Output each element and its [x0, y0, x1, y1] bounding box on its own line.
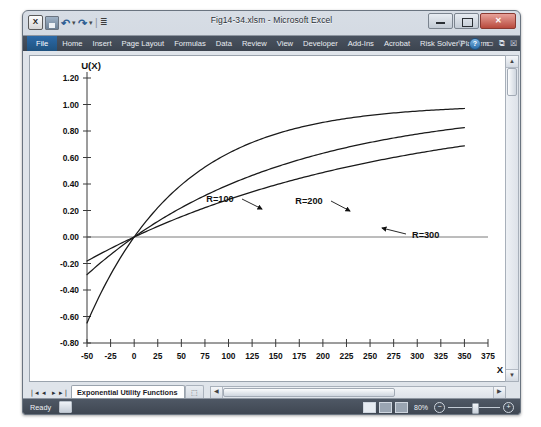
x-axis-tick-label: 325	[434, 351, 448, 361]
status-text: Ready	[23, 403, 51, 412]
x-axis-tick-label: 300	[410, 351, 424, 361]
y-axis-tick-label: 0.40	[63, 179, 80, 189]
x-axis-tick-label: 25	[153, 351, 163, 361]
minimize-ribbon-icon[interactable]: ▭	[486, 36, 494, 51]
y-axis-tick-label: 1.20	[63, 73, 80, 83]
x-axis-tick-label: 75	[200, 351, 210, 361]
zoom-slider-thumb[interactable]	[472, 403, 479, 414]
y-axis-tick-label: 1.00	[63, 100, 80, 110]
y-axis-tick-label: 0.80	[63, 126, 80, 136]
tab-file[interactable]: File	[27, 36, 57, 51]
annotation-label: R=300	[412, 230, 439, 240]
annotation-leader	[331, 201, 350, 211]
annotation-r-100: R=100	[206, 194, 262, 209]
restore-button[interactable]	[454, 13, 479, 29]
x-axis-title: X	[497, 364, 504, 375]
tab-formulas[interactable]: Formulas	[169, 36, 211, 51]
close-window-icon[interactable]: ☒	[510, 36, 517, 51]
ribbon-right-icons: ▽ ? ▭ ⧉ ☒	[458, 36, 517, 51]
annotation-leader	[382, 228, 406, 234]
tab-home[interactable]: Home	[57, 36, 87, 51]
ribbon-tabs: File Home Insert Page Layout Formulas Da…	[23, 36, 520, 51]
scroll-left-icon[interactable]: ◀	[211, 387, 223, 398]
x-axis-tick-label: 275	[387, 351, 401, 361]
close-button[interactable]: ✕	[480, 13, 516, 29]
page-break-view-button[interactable]	[395, 402, 408, 413]
x-axis-tick-label: 150	[269, 351, 283, 361]
series-line-r-200	[87, 128, 464, 275]
annotation-label: R=200	[295, 196, 322, 206]
y-axis-tick-label: 0.60	[63, 153, 80, 163]
x-axis-tick-label: 50	[177, 351, 187, 361]
x-axis-tick-label: 200	[316, 351, 330, 361]
normal-view-button[interactable]	[363, 402, 376, 413]
sheet-tab-exponential-utility-functions[interactable]: Exponential Utility Functions	[71, 385, 185, 399]
insert-worksheet-icon[interactable]: ⬚	[185, 385, 204, 399]
tab-data[interactable]: Data	[211, 36, 237, 51]
y-axis-tick-label: -0.20	[60, 259, 79, 269]
chart-svg: -0.80-0.60-0.40-0.200.000.200.400.600.80…	[30, 56, 507, 387]
x-axis-tick-label: 250	[363, 351, 377, 361]
tab-page-layout[interactable]: Page Layout	[117, 36, 170, 51]
first-sheet-icon[interactable]: ❘◂	[29, 389, 38, 397]
annotation-r-300: R=300	[382, 228, 439, 240]
y-axis-title: U(X)	[81, 60, 101, 71]
series-line-r-300	[87, 146, 464, 261]
screenshot-root: X ↶ ▾ ↷ ▾ | ≣ Fig14-34.xlsm - Microsoft …	[0, 0, 541, 427]
horizontal-scroll-thumb[interactable]	[223, 388, 396, 397]
y-axis-tick-label: 0.00	[63, 232, 80, 242]
x-axis-tick-label: 175	[292, 351, 306, 361]
window-controls: ✕	[428, 13, 516, 29]
vertical-scrollbar[interactable]: ▲ ▼	[505, 55, 519, 382]
ribbon-options-icon[interactable]: ▽	[458, 36, 464, 51]
scroll-down-icon[interactable]: ▼	[506, 369, 518, 381]
y-axis-tick-label: -0.60	[60, 312, 79, 322]
last-sheet-icon[interactable]: ▸❘	[59, 389, 68, 397]
scroll-up-icon[interactable]: ▲	[506, 56, 518, 68]
zoom-in-button[interactable]: +	[503, 402, 514, 413]
annotation-label: R=100	[206, 194, 233, 204]
excel-window: X ↶ ▾ ↷ ▾ | ≣ Fig14-34.xlsm - Microsoft …	[22, 10, 521, 415]
title-bar: X ↶ ▾ ↷ ▾ | ≣ Fig14-34.xlsm - Microsoft …	[23, 11, 520, 35]
x-axis-tick-label: 350	[457, 351, 471, 361]
ribbon-tab-strip: File Home Insert Page Layout Formulas Da…	[23, 35, 520, 51]
tab-add-ins[interactable]: Add-Ins	[343, 36, 379, 51]
y-axis-tick-label: -0.40	[60, 285, 79, 295]
record-macro-icon[interactable]	[59, 401, 72, 413]
help-icon[interactable]: ?	[469, 38, 481, 50]
workbook-area: -0.80-0.60-0.40-0.200.000.200.400.600.80…	[23, 51, 520, 415]
tab-view[interactable]: View	[272, 36, 298, 51]
series-line-r-100	[87, 109, 464, 323]
x-axis-tick-label: 225	[339, 351, 353, 361]
tab-review[interactable]: Review	[237, 36, 272, 51]
sheet-nav-buttons: ❘◂ ◂ ▸ ▸❘	[29, 389, 71, 397]
tab-insert[interactable]: Insert	[88, 36, 117, 51]
x-axis-tick-label: 0	[132, 351, 137, 361]
chart-sheet-canvas[interactable]: -0.80-0.60-0.40-0.200.000.200.400.600.80…	[29, 55, 506, 382]
restore-window-icon[interactable]: ⧉	[499, 36, 505, 51]
zoom-slider[interactable]	[448, 403, 500, 412]
minimize-button[interactable]	[428, 13, 453, 29]
annotation-r-200: R=200	[295, 196, 350, 211]
next-sheet-icon[interactable]: ▸	[49, 389, 58, 397]
scroll-right-icon[interactable]: ▶	[493, 387, 505, 398]
tab-developer[interactable]: Developer	[298, 36, 343, 51]
x-axis-tick-label: -25	[105, 351, 117, 361]
page-layout-view-button[interactable]	[379, 402, 392, 413]
status-right-group: 80% − +	[363, 402, 520, 413]
exponential-utility-chart: -0.80-0.60-0.40-0.200.000.200.400.600.80…	[30, 56, 505, 381]
x-axis-tick-label: 100	[222, 351, 236, 361]
prev-sheet-icon[interactable]: ◂	[39, 389, 48, 397]
y-axis-tick-label: -0.80	[60, 338, 79, 348]
y-axis-tick-label: 0.20	[63, 206, 80, 216]
zoom-out-button[interactable]: −	[434, 402, 445, 413]
annotation-leader	[242, 199, 262, 209]
x-axis-tick-label: 375	[481, 351, 495, 361]
zoom-level-label[interactable]: 80%	[411, 404, 431, 411]
status-bar: Ready 80% − +	[23, 398, 520, 415]
vertical-scroll-thumb[interactable]	[507, 68, 517, 96]
x-axis-tick-label: -50	[81, 351, 93, 361]
tab-acrobat[interactable]: Acrobat	[379, 36, 415, 51]
x-axis-tick-label: 125	[245, 351, 259, 361]
